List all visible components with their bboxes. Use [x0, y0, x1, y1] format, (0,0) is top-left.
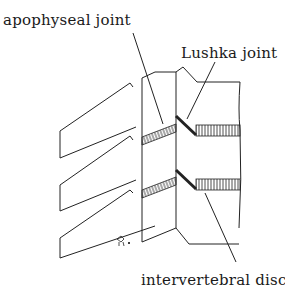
sketch-mark [117, 236, 130, 246]
apophyseal-joint-upper [142, 124, 176, 145]
intervertebral-disc-lower [196, 179, 240, 190]
lushka-joint-upper [176, 116, 196, 135]
apophyseal-joint-lower [142, 177, 176, 198]
label-intervertebral-disc: intervertebral disc [141, 271, 285, 289]
lushka-joint-lower [176, 170, 196, 189]
pedicle-column [142, 72, 176, 242]
label-lushka-joint: Lushka joint [181, 44, 277, 62]
leader-apophyseal-joint [133, 33, 163, 124]
intervertebral-disc-upper [196, 125, 240, 136]
vertebral-body [176, 67, 241, 244]
leader-lushka-joint [187, 62, 215, 119]
articular-process-top [60, 83, 136, 158]
leader-intervertebral-disc [205, 193, 236, 262]
articular-process-middle [60, 136, 136, 211]
articular-process-bottom [60, 190, 155, 258]
label-apophyseal-joint: apophyseal joint [3, 11, 131, 29]
spine-joint-diagram: apophyseal joint Lushka joint interverte… [0, 0, 285, 296]
